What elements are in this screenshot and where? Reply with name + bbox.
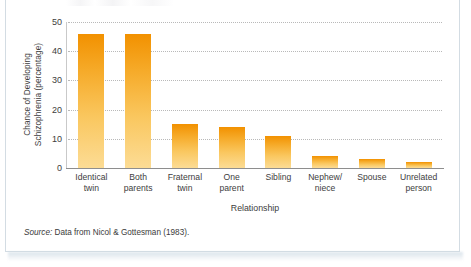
bar: [265, 136, 291, 168]
plot-area: [68, 22, 442, 168]
bar: [219, 127, 245, 168]
x-axis-tick-label-line: parent: [202, 183, 261, 194]
bar-slot: [349, 22, 396, 168]
bar-slot: [162, 22, 209, 168]
y-axis-title-line1: Chance of Developing: [22, 25, 33, 165]
source-text: Data from Nicol & Gottesman (1983).: [52, 228, 189, 237]
x-axis-tick-label-line: niece: [296, 183, 355, 194]
bar-slot: [208, 22, 255, 168]
x-axis-title: Relationship: [68, 203, 442, 213]
x-axis-line: [66, 168, 444, 169]
x-axis-tick-labels: IdenticaltwinBothparentsFraternaltwinOne…: [68, 172, 442, 202]
source-label: Source:: [24, 228, 52, 237]
bar-slot: [255, 22, 302, 168]
bar-chart: Chance of Developing Schizophrenia (perc…: [6, 0, 461, 252]
bar-series: [68, 22, 442, 168]
bar: [125, 34, 151, 168]
figure-panel: Chance of Developing Schizophrenia (perc…: [5, 0, 460, 252]
y-axis-tick-label: 10: [40, 134, 62, 144]
bar: [312, 156, 338, 168]
x-axis-tick-label-line: Unrelated: [389, 172, 448, 183]
y-axis-tick-label: 0: [40, 163, 62, 173]
x-axis-tick-label-line: person: [389, 183, 448, 194]
panel-shadow: [8, 252, 463, 261]
y-axis-tick-label: 20: [40, 105, 62, 115]
x-axis-tick-label: Unrelatedperson: [389, 172, 448, 194]
bar-slot: [302, 22, 349, 168]
bar-slot: [68, 22, 115, 168]
y-axis-tick-label: 50: [40, 17, 62, 27]
bar: [359, 159, 385, 168]
y-axis-tick-label: 30: [40, 75, 62, 85]
source-note: Source: Data from Nicol & Gottesman (198…: [24, 228, 189, 237]
y-axis-tick-labels: 01020304050: [36, 0, 62, 252]
bar: [172, 124, 198, 168]
bar-slot: [115, 22, 162, 168]
bar: [78, 34, 104, 168]
y-axis-line: [66, 22, 67, 169]
y-axis-tick-label: 40: [40, 46, 62, 56]
bar-slot: [395, 22, 442, 168]
bar: [406, 162, 432, 168]
